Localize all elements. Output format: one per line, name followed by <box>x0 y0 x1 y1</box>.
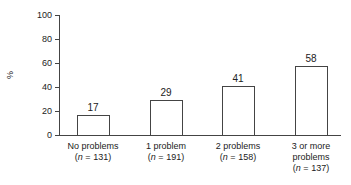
category-name: 2 problems <box>198 141 278 152</box>
y-tick <box>55 111 59 112</box>
n-value: 131 <box>93 152 108 162</box>
category-label: 1 problem (n = 191) <box>126 141 206 163</box>
bar-value-label: 41 <box>218 74 258 84</box>
y-tick-label: 20 <box>22 106 52 116</box>
bar-2-problems <box>222 86 255 136</box>
n-value: 137 <box>311 163 326 173</box>
category-label: No problems (n = 131) <box>53 141 133 163</box>
category-n: (n = 191) <box>126 152 206 163</box>
y-tick-label: 0 <box>22 130 52 140</box>
category-n: (n = 137) <box>271 163 351 174</box>
category-name-cont: problems <box>271 152 351 163</box>
bar-3-or-more-problems <box>295 66 328 136</box>
category-label: 2 problems (n = 158) <box>198 141 278 163</box>
bar-no-problems <box>77 115 110 136</box>
y-tick-label: 40 <box>22 82 52 92</box>
category-name: 3 or more <box>271 141 351 152</box>
y-tick <box>55 39 59 40</box>
y-tick <box>55 15 59 16</box>
y-axis-label: % <box>5 71 15 79</box>
y-tick-label: 60 <box>22 58 52 68</box>
category-label: 3 or more problems (n = 137) <box>271 141 351 174</box>
category-name: 1 problem <box>126 141 206 152</box>
y-tick-label: 100 <box>22 10 52 20</box>
category-name: No problems <box>53 141 133 152</box>
y-tick-label: 80 <box>22 34 52 44</box>
bar-value-label: 17 <box>73 103 113 113</box>
bar-value-label: 29 <box>146 88 186 98</box>
y-axis-line <box>59 15 60 135</box>
y-tick <box>55 63 59 64</box>
n-value: 191 <box>166 152 181 162</box>
category-n: (n = 131) <box>53 152 133 163</box>
category-n: (n = 158) <box>198 152 278 163</box>
n-value: 158 <box>238 152 253 162</box>
bar-value-label: 58 <box>291 54 331 64</box>
y-tick <box>55 135 59 136</box>
bar-1-problem <box>150 100 183 136</box>
y-tick <box>55 87 59 88</box>
